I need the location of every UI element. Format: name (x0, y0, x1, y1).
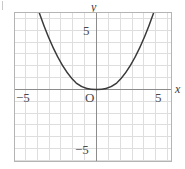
x-axis-label: x (175, 83, 180, 95)
x-tick-label-negative-5: −5 (16, 91, 30, 104)
graph-figure: y x (0, 0, 185, 169)
corner-tick-mark (2, 1, 3, 10)
y-tick-label-negative-5: −5 (75, 143, 89, 156)
x-tick-label-positive-5: 5 (155, 91, 162, 104)
y-tick-label-positive-5: 5 (83, 24, 90, 37)
parabola-curve (15, 13, 171, 161)
plot-area (14, 12, 172, 162)
origin-label: O (85, 91, 94, 104)
